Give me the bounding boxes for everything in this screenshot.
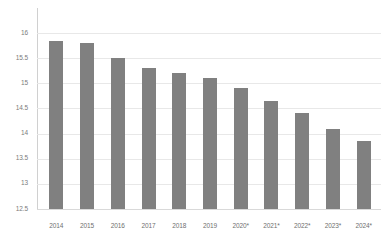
bar[interactable] [326,129,340,209]
x-axis-tick-label: 2021* [263,222,280,229]
bar-slot [225,8,256,209]
bar[interactable] [357,141,371,209]
bar[interactable] [49,41,63,209]
y-axis-tick-label: 15.5 [0,54,28,61]
y-axis-tick-label: 13.5 [0,154,28,161]
bar-slot [348,8,379,209]
x-axis-tick-label: 2018 [172,222,186,229]
bar[interactable] [142,68,156,209]
x-axis-tick-label: 2024* [355,222,372,229]
y-axis-tick-label: 12.5 [0,205,28,212]
x-axis-tick-label: 2015 [80,222,94,229]
bar-slot [164,8,195,209]
bar-slot [287,8,318,209]
bar[interactable] [203,78,217,209]
bar-slot [102,8,133,209]
bar[interactable] [80,43,94,209]
plot-area: 1615.51514.51413.51312.5 201420152016201… [37,8,381,209]
bar-slot [41,8,72,209]
bars-layer [37,8,381,209]
x-axis-tick-label: 2020* [232,222,249,229]
x-axis-tick-label: 2022* [294,222,311,229]
bar[interactable] [172,73,186,209]
gridline [37,209,381,210]
x-axis-tick-label: 2017 [142,222,156,229]
y-axis-tick-label: 13 [0,179,28,186]
bar-slot [318,8,349,209]
bar[interactable] [264,101,278,209]
bar-slot [72,8,103,209]
bar[interactable] [111,58,125,209]
x-axis-tick-label: 2014 [49,222,63,229]
bar-slot [195,8,226,209]
bar[interactable] [295,113,309,209]
bar[interactable] [234,88,248,209]
bar-slot [133,8,164,209]
bar-slot [256,8,287,209]
x-axis-tick-label: 2019 [203,222,217,229]
y-axis-tick-label: 14.5 [0,104,28,111]
bar-chart: 1615.51514.51413.51312.5 201420152016201… [0,0,388,242]
x-axis-tick-label: 2016 [111,222,125,229]
x-axis-tick-label: 2023* [325,222,342,229]
y-axis-tick-label: 15 [0,79,28,86]
y-axis-tick-label: 14 [0,129,28,136]
y-axis-tick-label: 16 [0,29,28,36]
